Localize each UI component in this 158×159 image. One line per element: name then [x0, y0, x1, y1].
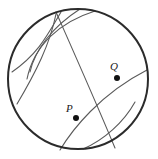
point-marker-P — [73, 115, 79, 121]
point-marker-Q — [114, 75, 120, 81]
geometry-figure-svg: P Q — [0, 0, 158, 159]
geometry-figure-container: P Q — [0, 0, 158, 159]
point-label-Q: Q — [110, 60, 118, 72]
figure-background — [0, 0, 158, 159]
point-label-P: P — [65, 102, 73, 114]
